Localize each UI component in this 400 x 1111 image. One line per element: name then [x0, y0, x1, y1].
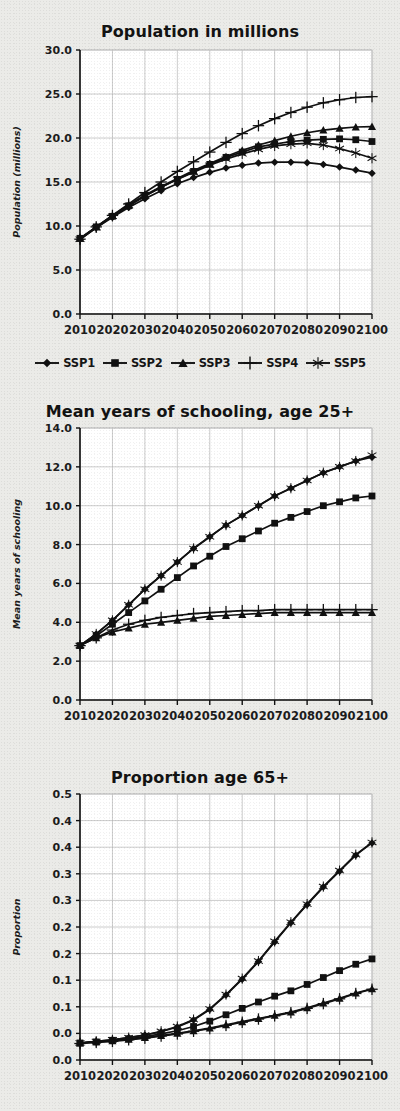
- marker-square: [141, 598, 148, 605]
- x-tick-label: 2080: [291, 709, 323, 723]
- x-tick-label: 2090: [324, 1069, 356, 1083]
- marker-square: [336, 498, 343, 505]
- x-tick-label: 2010: [64, 1069, 96, 1083]
- plus-marker-h: [318, 609, 329, 610]
- square-marker: [271, 520, 278, 527]
- y-tick-label: 0.3: [53, 894, 73, 907]
- square-marker: [352, 495, 359, 502]
- y-tick-label: 14.0: [45, 422, 72, 435]
- y-tick-label: 8.0: [53, 539, 73, 552]
- plus-marker-h: [188, 1031, 199, 1032]
- marker-square: [352, 136, 359, 143]
- plus-marker-h: [237, 610, 248, 611]
- plus-marker-h: [204, 151, 215, 152]
- y-tick-label: 10.0: [45, 500, 72, 513]
- legend-item-ssp4[interactable]: SSP4: [237, 356, 298, 370]
- y-tick-label: 2.0: [53, 655, 73, 668]
- legend-label: SSP1: [63, 356, 95, 370]
- y-tick-label: 0.0: [53, 308, 73, 321]
- figure-page: Population in millions 30.025.020.015.01…: [0, 0, 400, 1111]
- square-marker: [190, 563, 197, 570]
- x-tick-label: 2060: [226, 323, 258, 337]
- y-tick-label: 20.0: [45, 132, 72, 145]
- y-tick-label: 0.0: [53, 1054, 73, 1067]
- plus-marker-h: [301, 107, 312, 108]
- chart-panel-population: Population in millions 30.025.020.015.01…: [0, 0, 400, 390]
- chart-title-population: Population in millions: [0, 0, 400, 42]
- plus-marker-h: [172, 1033, 183, 1034]
- square-marker: [223, 1011, 230, 1018]
- x-tick-label: 2100: [356, 1069, 388, 1083]
- legend-label: SSP2: [131, 356, 163, 370]
- plus-marker-h: [334, 998, 345, 999]
- square-marker: [158, 586, 165, 593]
- plot-background: [80, 428, 372, 700]
- plot-area-proportion: 0.50.40.40.30.30.20.20.10.10.00.02010202…: [0, 788, 400, 1103]
- legend-item-ssp3[interactable]: SSP3: [170, 356, 231, 370]
- plus-marker-h: [350, 609, 361, 610]
- x-tick-label: 2080: [291, 323, 323, 337]
- y-tick-label: 30.0: [45, 44, 72, 57]
- y-axis-ticks: 30.025.020.015.010.05.00.0: [45, 44, 80, 321]
- chart-panel-schooling: Mean years of schooling, age 25+ 14.012.…: [0, 390, 400, 750]
- plus-marker-h: [285, 112, 296, 113]
- x-tick-label: 2080: [291, 1069, 323, 1083]
- square-marker: [320, 502, 327, 509]
- plus-marker-h: [220, 1025, 231, 1026]
- x-tick-label: 2100: [356, 709, 388, 723]
- x-tick-label: 2070: [259, 709, 291, 723]
- y-axis-title: Mean years of schooling: [11, 499, 22, 629]
- plus-marker-h: [123, 624, 134, 625]
- legend-label: SSP5: [334, 356, 366, 370]
- marker-square: [304, 981, 311, 988]
- y-tick-label: 0.1: [53, 1001, 73, 1014]
- marker-square: [287, 514, 294, 521]
- plus-marker-h: [253, 125, 264, 126]
- legend-item-ssp1[interactable]: SSP1: [34, 356, 95, 370]
- x-tick-label: 2050: [194, 1069, 226, 1083]
- plus-marker-h: [269, 118, 280, 119]
- marker-square: [271, 993, 278, 1000]
- plus-marker-h: [366, 96, 377, 97]
- plus-marker-h: [334, 609, 345, 610]
- x-tick-label: 2100: [356, 323, 388, 337]
- plus-marker-h: [253, 610, 264, 611]
- marker-square: [239, 1005, 246, 1012]
- marker-square: [271, 520, 278, 527]
- y-tick-label: 6.0: [53, 577, 73, 590]
- marker-square: [174, 574, 181, 581]
- marker-square: [304, 508, 311, 515]
- y-tick-label: 12.0: [45, 461, 72, 474]
- chart-panel-proportion: Proportion age 65+ 0.50.40.40.30.30.20.2…: [0, 750, 400, 1111]
- legend-item-ssp2[interactable]: SSP2: [102, 356, 163, 370]
- marker-square: [125, 609, 132, 616]
- x-tick-label: 2070: [259, 323, 291, 337]
- plus-marker-h: [155, 617, 166, 618]
- plus-marker-h: [237, 1022, 248, 1023]
- plus-marker-h: [139, 620, 150, 621]
- square-marker: [255, 999, 262, 1006]
- y-tick-label: 5.0: [53, 264, 73, 277]
- y-tick-label: 0.3: [53, 868, 73, 881]
- marker-square: [239, 535, 246, 542]
- y-tick-label: 0.4: [53, 841, 73, 854]
- plus-marker-h: [204, 612, 215, 613]
- marker-square: [255, 999, 262, 1006]
- marker-square: [190, 563, 197, 570]
- y-tick-label: 4.0: [53, 616, 73, 629]
- x-tick-label: 2020: [96, 1069, 128, 1083]
- y-tick-label: 25.0: [45, 88, 72, 101]
- marker-square: [287, 987, 294, 994]
- marker-square: [336, 967, 343, 974]
- square-marker: [304, 981, 311, 988]
- legend-item-ssp5[interactable]: SSP5: [305, 356, 366, 370]
- legend-label: SSP3: [199, 356, 231, 370]
- x-tick-label: 2050: [194, 323, 226, 337]
- y-axis-title: Population (millions): [11, 126, 22, 238]
- y-tick-label: 0.4: [53, 815, 73, 828]
- plus-marker-h: [172, 615, 183, 616]
- x-tick-label: 2030: [129, 709, 161, 723]
- plus-marker-h: [107, 629, 118, 630]
- square-marker: [287, 514, 294, 521]
- y-axis-ticks: 0.50.40.40.30.30.20.20.10.10.00.0: [53, 788, 81, 1067]
